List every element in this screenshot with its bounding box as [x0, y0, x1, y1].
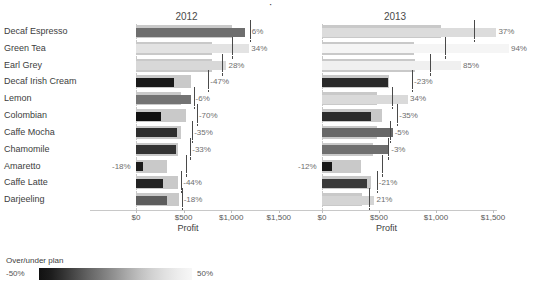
x-axis-2013: Profit $0$500$1,000$1,500: [276, 210, 497, 234]
category-label: Caffe Latte: [4, 175, 82, 191]
bullet-row[interactable]: -35%: [276, 108, 497, 124]
over-under-label: -35%: [399, 110, 418, 122]
bullet-row[interactable]: 6%: [90, 24, 286, 40]
value-bar[interactable]: [136, 78, 174, 87]
value-bar[interactable]: [322, 145, 389, 154]
row-separator: [90, 156, 286, 157]
row-separator: [276, 72, 497, 73]
bullet-row[interactable]: -12%: [276, 159, 497, 175]
row-separator: [276, 140, 497, 141]
x-tick-label: $0: [318, 213, 327, 222]
value-bar[interactable]: [322, 196, 374, 205]
value-bar[interactable]: [322, 61, 461, 70]
x-axis-rule: [90, 210, 286, 211]
value-bar[interactable]: [136, 162, 143, 171]
over-under-label: 94%: [511, 43, 527, 55]
value-bar[interactable]: [136, 179, 163, 188]
bullet-row[interactable]: -5%: [276, 125, 497, 141]
row-separator: [90, 106, 286, 107]
bullet-row[interactable]: 21%: [276, 192, 497, 208]
row-separator: [90, 190, 286, 191]
legend-color-ramp: [39, 268, 192, 280]
over-under-label: 21%: [376, 194, 392, 206]
over-under-label: -5%: [395, 127, 409, 139]
bullet-row[interactable]: -33%: [90, 142, 286, 158]
value-bar[interactable]: [136, 61, 226, 70]
bullet-chart-visualization: · 2012 2013 Decaf EspressoGreen TeaEarl …: [0, 0, 541, 287]
row-separator: [276, 207, 497, 208]
value-bar[interactable]: [322, 162, 332, 171]
plot-panel-2013: 37%94%85%-23%34%-35%-5%-3%-12%-21%21%: [276, 24, 497, 209]
x-axis-2012: Profit $0$500$1,000$1,500: [90, 210, 286, 234]
bullet-row[interactable]: 34%: [90, 41, 286, 57]
over-under-label: -35%: [194, 127, 213, 139]
plot-panel-2012: 6%34%28%-47%-6%-70%-35%-33%-18%-44%-18%: [90, 24, 286, 209]
row-separator: [90, 55, 286, 56]
over-under-label: 37%: [498, 26, 514, 38]
bullet-row[interactable]: -3%: [276, 142, 497, 158]
value-bar[interactable]: [136, 28, 245, 37]
value-bar[interactable]: [322, 44, 509, 53]
bullet-row[interactable]: 94%: [276, 41, 497, 57]
bullet-row[interactable]: -23%: [276, 74, 497, 90]
over-under-label: -18%: [184, 194, 203, 206]
bullet-row[interactable]: -35%: [90, 125, 286, 141]
over-under-label: -21%: [379, 177, 398, 189]
over-under-label: 6%: [252, 26, 264, 38]
bullet-row[interactable]: 34%: [276, 91, 497, 107]
x-axis-rule: [276, 210, 497, 211]
row-separator: [276, 190, 497, 191]
category-label: Lemon: [4, 91, 82, 107]
legend-min-label: -50%: [6, 267, 25, 281]
value-bar[interactable]: [136, 128, 177, 137]
row-separator: [90, 173, 286, 174]
bullet-row[interactable]: -70%: [90, 108, 286, 124]
over-under-label: 34%: [410, 93, 426, 105]
value-bar[interactable]: [322, 128, 393, 137]
row-separator: [90, 140, 286, 141]
bullet-row[interactable]: 37%: [276, 24, 497, 40]
x-tick-label: $1,000: [219, 213, 243, 222]
bullet-row[interactable]: 85%: [276, 58, 497, 74]
category-label: Chamomile: [4, 142, 82, 158]
legend-max-label: 50%: [197, 267, 213, 281]
over-under-label: -18%: [112, 161, 131, 173]
value-bar[interactable]: [322, 95, 408, 104]
bullet-row[interactable]: -18%: [90, 192, 286, 208]
value-bar[interactable]: [136, 145, 176, 154]
over-under-label: -23%: [414, 76, 433, 88]
over-under-label: 85%: [463, 60, 479, 72]
over-under-label: -47%: [210, 76, 229, 88]
bullet-row[interactable]: -47%: [90, 74, 286, 90]
x-tick-label: $500: [370, 213, 388, 222]
bullet-row[interactable]: -18%: [90, 159, 286, 175]
bullet-row[interactable]: 28%: [90, 58, 286, 74]
value-bar[interactable]: [322, 179, 367, 188]
category-axis-labels: Decaf EspressoGreen TeaEarl GreyDecaf Ir…: [0, 24, 86, 209]
category-label: Caffe Mocha: [4, 125, 82, 141]
over-under-label: -33%: [192, 144, 211, 156]
row-separator: [276, 106, 497, 107]
category-label: Decaf Espresso: [4, 24, 82, 40]
row-separator: [90, 123, 286, 124]
row-separator: [90, 39, 286, 40]
category-label: Colombian: [4, 108, 82, 124]
x-tick-label: $1,500: [481, 213, 505, 222]
over-under-label: 34%: [251, 43, 267, 55]
value-bar[interactable]: [136, 196, 167, 205]
panel-header-2012: 2012: [90, 10, 283, 23]
x-axis-title: Profit: [90, 223, 286, 233]
legend: Over/under plan -50% 50%: [6, 255, 266, 285]
value-bar[interactable]: [322, 112, 371, 121]
bullet-row[interactable]: -21%: [276, 175, 497, 191]
bullet-row[interactable]: -6%: [90, 91, 286, 107]
value-bar[interactable]: [136, 112, 161, 121]
over-under-label: -3%: [391, 144, 405, 156]
value-bar[interactable]: [322, 28, 496, 37]
category-label: Decaf Irish Cream: [4, 74, 82, 90]
value-bar[interactable]: [322, 78, 388, 87]
category-label: Darjeeling: [4, 192, 82, 208]
bullet-row[interactable]: -44%: [90, 175, 286, 191]
value-bar[interactable]: [136, 95, 191, 104]
row-separator: [276, 173, 497, 174]
